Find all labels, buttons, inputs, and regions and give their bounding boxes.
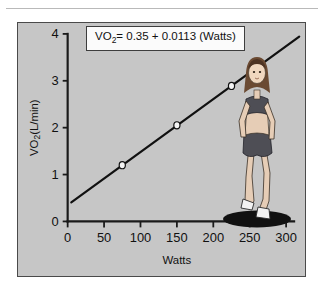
x-tick-label: 200	[203, 230, 225, 245]
figure-panel: 01234050100150200250300WattsVO2(L/min) V…	[17, 22, 306, 277]
regression-equation-box: VO2= 0.35 + 0.0113 (Watts)	[86, 26, 245, 51]
x-tick-label: 100	[130, 230, 152, 245]
page-top-rule	[6, 8, 318, 9]
y-tick-label: 3	[52, 73, 59, 88]
y-tick-label: 2	[52, 120, 59, 135]
y-tick-label: 4	[52, 26, 59, 41]
data-point-marker	[119, 162, 125, 169]
x-tick-label: 250	[239, 230, 261, 245]
x-tick-label: 50	[97, 230, 111, 245]
x-axis-title: Watts	[163, 254, 192, 266]
x-tick-label: 150	[166, 230, 188, 245]
y-tick-label: 0	[52, 214, 59, 229]
equation-prefix: VO	[95, 30, 112, 42]
x-tick-label: 300	[275, 230, 297, 245]
data-point-marker	[174, 122, 180, 129]
equation-rest: = 0.35 + 0.0113 (Watts)	[116, 30, 236, 42]
runner-illustration	[219, 49, 293, 229]
y-axis-title: VO2(L/min)	[28, 99, 43, 156]
y-tick-label: 1	[52, 167, 59, 182]
x-tick-label: 0	[64, 230, 71, 245]
